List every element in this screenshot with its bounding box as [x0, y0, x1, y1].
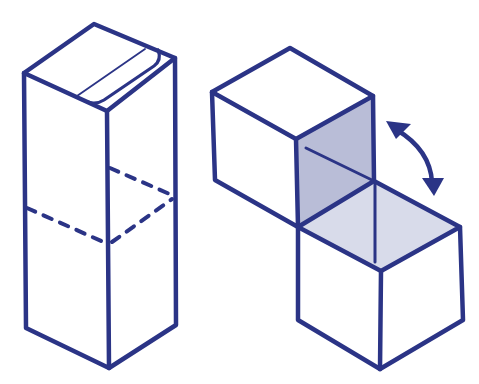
fold-line-dashed — [27, 168, 174, 244]
tall-box-front-right-face — [109, 58, 176, 368]
tall-box — [24, 24, 176, 368]
upper-cube-right-edge — [373, 96, 374, 181]
diagram-canvas — [0, 0, 479, 384]
upper-cube-left-face — [212, 92, 298, 227]
rotate-double-arrow-icon — [386, 121, 444, 196]
diagram-svg — [0, 0, 479, 384]
tall-box-front-left-face — [24, 73, 109, 368]
hinged-cubes — [212, 48, 463, 369]
